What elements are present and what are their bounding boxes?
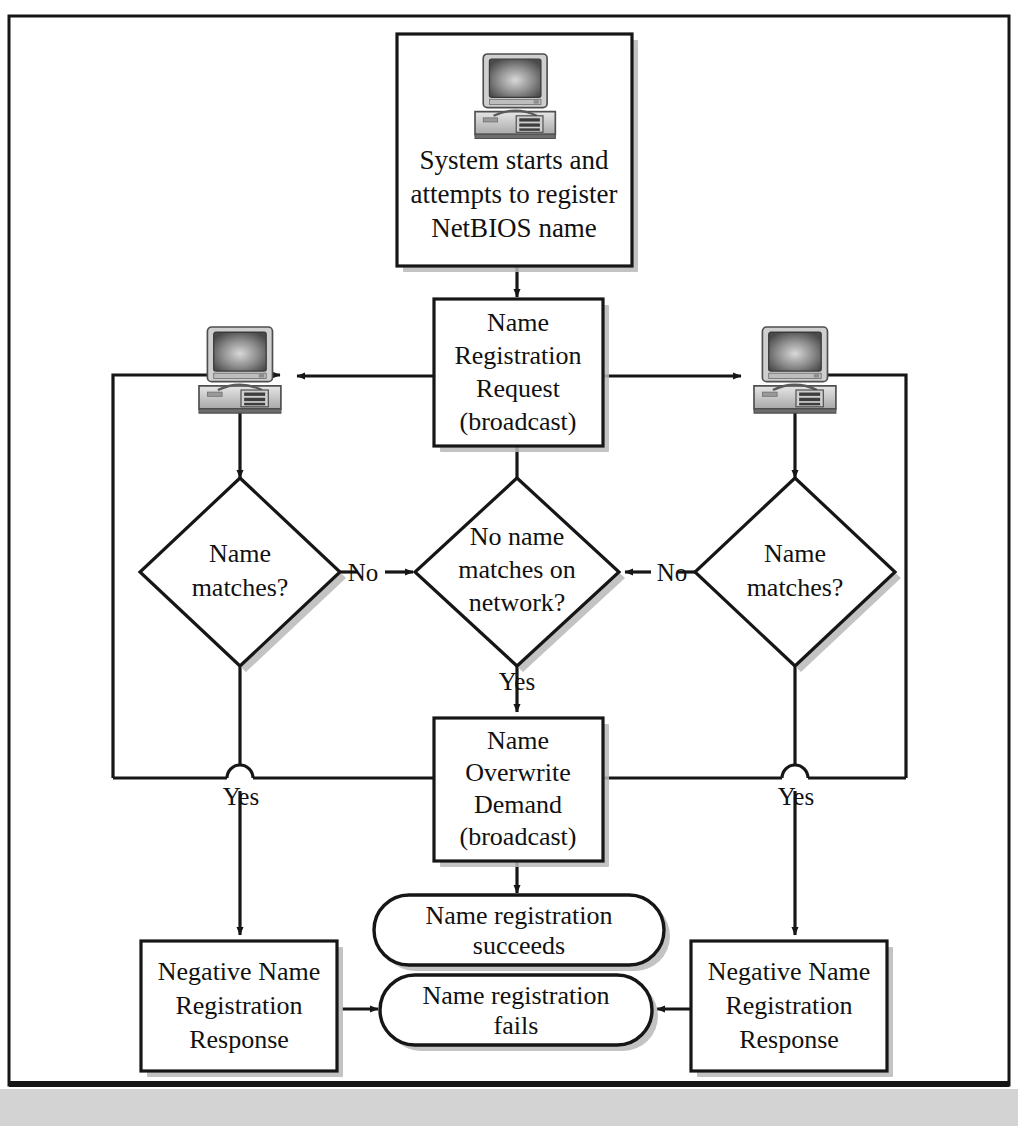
succeeds-line-1: Name registration bbox=[426, 901, 613, 930]
desktop-computer-icon bbox=[199, 327, 281, 413]
left-negative-line-2: Registration bbox=[175, 991, 302, 1020]
edge-label-center-yes: Yes bbox=[499, 668, 535, 695]
left-negative-line-1: Negative Name bbox=[158, 957, 320, 986]
edge-label-right-no: No bbox=[657, 559, 688, 586]
right-negative-line-1: Negative Name bbox=[708, 957, 870, 986]
left-decision-line-1: Name bbox=[209, 539, 271, 568]
fails-line-1: Name registration bbox=[423, 981, 610, 1010]
desktop-computer-icon bbox=[754, 327, 836, 413]
right-decision-line-2: matches? bbox=[747, 573, 844, 602]
desktop-computer-icon bbox=[475, 54, 555, 138]
request-line-4: (broadcast) bbox=[460, 407, 577, 436]
node-name-registration-request: Name Registration Request (broadcast) bbox=[434, 299, 609, 452]
request-line-2: Registration bbox=[454, 341, 581, 370]
node-fails: Name registration fails bbox=[380, 975, 658, 1051]
node-succeeds: Name registration succeeds bbox=[374, 895, 670, 971]
node-left-host bbox=[199, 327, 281, 413]
overwrite-line-4: (broadcast) bbox=[460, 822, 577, 851]
overwrite-line-3: Demand bbox=[474, 790, 562, 819]
right-negative-line-2: Registration bbox=[725, 991, 852, 1020]
figure-root: center decision --> center decision --> … bbox=[0, 0, 1018, 1126]
right-decision-line-1: Name bbox=[764, 539, 826, 568]
left-decision-line-2: matches? bbox=[192, 573, 289, 602]
flowchart-diagram: center decision --> center decision --> … bbox=[0, 0, 1018, 1126]
center-decision-line-1: No name bbox=[470, 522, 565, 551]
node-right-negative-response: Negative Name Registration Response bbox=[691, 941, 893, 1077]
succeeds-line-2: succeeds bbox=[473, 931, 565, 960]
node-name-overwrite-demand: Name Overwrite Demand (broadcast) bbox=[434, 718, 609, 867]
node-left-negative-response: Negative Name Registration Response bbox=[141, 941, 343, 1077]
edge-label-left-no: No bbox=[348, 559, 379, 586]
overwrite-line-1: Name bbox=[487, 726, 549, 755]
footer-bar bbox=[0, 1089, 1018, 1126]
overwrite-line-2: Overwrite bbox=[465, 758, 570, 787]
node-start-line-2: attempts to register bbox=[411, 179, 618, 209]
center-decision-line-3: network? bbox=[469, 588, 566, 617]
request-line-1: Name bbox=[487, 308, 549, 337]
node-start-line-1: System starts and bbox=[420, 145, 609, 175]
node-start-line-3: NetBIOS name bbox=[431, 213, 597, 243]
edge-label-left-yes: Yes bbox=[223, 783, 259, 810]
request-line-3: Request bbox=[476, 374, 561, 403]
edge-label-right-yes: Yes bbox=[778, 783, 814, 810]
node-start: System starts and attempts to register N… bbox=[397, 34, 638, 272]
node-right-host bbox=[754, 327, 836, 413]
fails-line-2: fails bbox=[494, 1011, 539, 1040]
center-decision-line-2: matches on bbox=[458, 555, 576, 584]
right-negative-line-3: Response bbox=[739, 1025, 839, 1054]
left-negative-line-3: Response bbox=[189, 1025, 289, 1054]
